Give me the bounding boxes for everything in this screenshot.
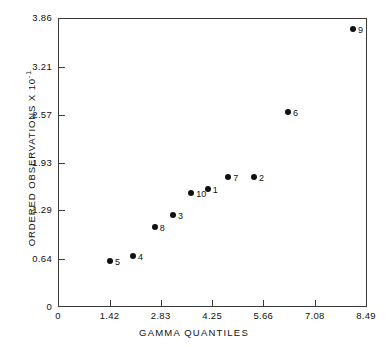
- data-point-label: 6: [293, 109, 298, 118]
- x-axis-tick-label: 8.49: [340, 311, 388, 321]
- plot-frame-top: [58, 18, 366, 19]
- y-axis-tick: [58, 18, 65, 19]
- data-point-label: 9: [358, 26, 363, 35]
- x-axis-tick: [110, 300, 111, 307]
- data-point-label: 3: [178, 212, 183, 221]
- y-axis-tick: [58, 67, 65, 68]
- data-point-label: 8: [160, 224, 165, 233]
- scatter-chart-figure: 00.641.291.932.573.213.86 01.422.834.255…: [0, 0, 388, 347]
- x-axis-tick: [212, 300, 213, 307]
- data-point-label: 7: [233, 174, 238, 183]
- y-axis-tick: [58, 115, 65, 116]
- plot-area: [58, 18, 366, 307]
- x-axis-tick-label: 0: [32, 311, 84, 321]
- y-axis-tick: [58, 210, 65, 211]
- data-point: [107, 258, 113, 264]
- x-axis-tick-label: 7.08: [289, 311, 341, 321]
- x-axis-tick: [263, 300, 264, 307]
- data-point: [170, 212, 176, 218]
- plot-frame-right: [366, 18, 367, 307]
- x-axis-tick-label: 1.42: [84, 311, 136, 321]
- data-point-label: 10: [196, 190, 206, 199]
- x-axis-tick: [315, 300, 316, 307]
- y-axis-tick-label: 3.86: [6, 13, 52, 23]
- y-axis-tick: [58, 259, 65, 260]
- data-point-label: 5: [115, 258, 120, 267]
- x-axis-tick-label: 5.66: [237, 311, 289, 321]
- x-axis-tick-label: 4.25: [186, 311, 238, 321]
- x-axis-tick-label: 2.83: [135, 311, 187, 321]
- data-point-label: 4: [138, 253, 143, 262]
- x-axis-title: GAMMA QUANTILES: [0, 327, 388, 338]
- data-point: [152, 224, 158, 230]
- x-axis-tick: [161, 300, 162, 307]
- y-axis-tick: [58, 163, 65, 164]
- data-point-label: 1: [213, 186, 218, 195]
- data-point-label: 2: [259, 174, 264, 183]
- y-axis-title: ORDERED OBSERVATIONS X 10-1: [25, 43, 37, 273]
